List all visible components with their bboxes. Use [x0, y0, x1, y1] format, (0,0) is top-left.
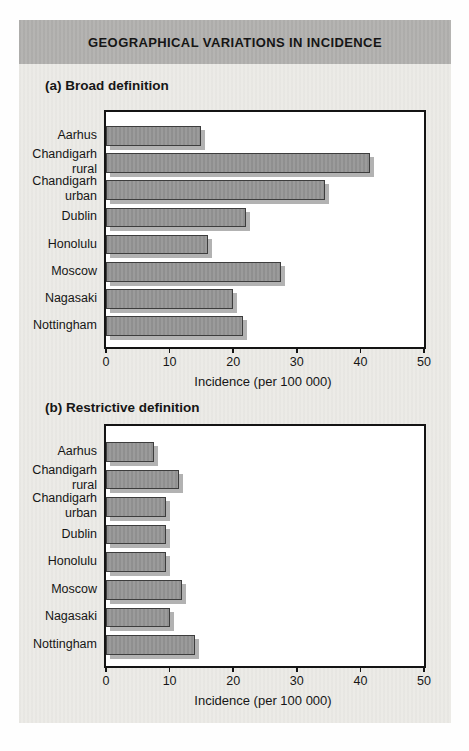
bar-nottingham	[106, 316, 243, 336]
tick-mark	[360, 347, 362, 353]
chart-broad-definition: (a) Broad definition AarhusChandigarhrur…	[19, 78, 451, 390]
category-label: Nagasaki	[19, 290, 97, 305]
tick-label: 10	[155, 674, 185, 688]
bar-aarhus	[106, 442, 154, 462]
tick-label: 30	[282, 674, 312, 688]
tick-mark	[423, 347, 425, 353]
figure-page: GEOGRAPHICAL VARIATIONS IN INCIDENCE (a)…	[0, 0, 469, 751]
category-label: Chandigarhrural	[19, 147, 97, 177]
tick-mark	[232, 666, 234, 672]
tick-label: 0	[91, 355, 121, 369]
tick-mark	[169, 666, 171, 672]
category-label: Chandigarhrural	[19, 463, 97, 493]
tick-mark	[105, 347, 107, 353]
category-label: Dublin	[19, 209, 97, 224]
tick-label: 20	[218, 355, 248, 369]
figure-title-bar: GEOGRAPHICAL VARIATIONS IN INCIDENCE	[19, 20, 451, 64]
category-label: Chandigarhurban	[19, 491, 97, 521]
section-label-b: (b) Restrictive definition	[45, 400, 200, 415]
category-label: Nagasaki	[19, 609, 97, 624]
bar-dublin	[106, 208, 246, 228]
bar-chandigarh-rural	[106, 153, 370, 173]
bar-moscow	[106, 262, 281, 282]
tick-label: 10	[155, 355, 185, 369]
tick-mark	[296, 666, 298, 672]
bar-nottingham	[106, 635, 195, 655]
tick-label: 30	[282, 355, 312, 369]
category-label: Nottingham	[19, 318, 97, 333]
tick-label: 50	[409, 674, 439, 688]
bar-chandigarh-rural	[106, 470, 179, 490]
tick-mark	[232, 347, 234, 353]
section-label-a: (a) Broad definition	[45, 78, 169, 93]
tick-mark	[296, 347, 298, 353]
category-label: Dublin	[19, 526, 97, 541]
bar-chandigarh-urban	[106, 497, 166, 517]
tick-label: 40	[345, 674, 375, 688]
category-label: Honolulu	[19, 236, 97, 251]
figure-title: GEOGRAPHICAL VARIATIONS IN INCIDENCE	[88, 35, 382, 50]
x-axis-title-b: Incidence (per 100 000)	[104, 693, 422, 708]
figure-panel: GEOGRAPHICAL VARIATIONS IN INCIDENCE (a)…	[19, 20, 451, 723]
category-label: Honolulu	[19, 554, 97, 569]
bar-aarhus	[106, 126, 201, 146]
tick-mark	[105, 666, 107, 672]
bar-nagasaki	[106, 608, 170, 628]
bar-chandigarh-urban	[106, 180, 325, 200]
category-label: Chandigarhurban	[19, 174, 97, 204]
tick-label: 40	[345, 355, 375, 369]
plot-area-a	[104, 110, 426, 349]
category-label: Aarhus	[19, 443, 97, 458]
tick-label: 50	[409, 355, 439, 369]
bar-moscow	[106, 580, 182, 600]
tick-label: 0	[91, 674, 121, 688]
bar-nagasaki	[106, 289, 233, 309]
category-label: Moscow	[19, 581, 97, 596]
category-label: Nottingham	[19, 636, 97, 651]
x-axis-title-a: Incidence (per 100 000)	[104, 374, 422, 389]
bar-honolulu	[106, 235, 208, 255]
tick-mark	[423, 666, 425, 672]
plot-area-b	[104, 424, 426, 668]
tick-mark	[360, 666, 362, 672]
chart-restrictive-definition: (b) Restrictive definition AarhusChandig…	[19, 398, 451, 716]
bar-honolulu	[106, 552, 166, 572]
category-label: Aarhus	[19, 127, 97, 142]
category-label: Moscow	[19, 263, 97, 278]
tick-label: 20	[218, 674, 248, 688]
tick-mark	[169, 347, 171, 353]
bar-dublin	[106, 525, 166, 545]
